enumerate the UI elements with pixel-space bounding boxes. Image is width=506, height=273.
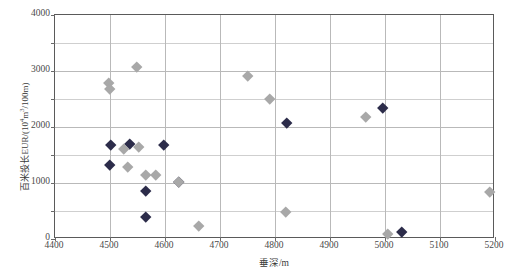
gridline-vertical — [165, 15, 166, 237]
y-tick-mark — [51, 43, 55, 44]
y-tick-mark — [51, 99, 55, 100]
data-point — [396, 226, 407, 237]
x-tick-label: 4700 — [210, 241, 229, 251]
gridline-horizontal — [55, 211, 493, 212]
data-point — [140, 185, 151, 196]
data-point — [106, 140, 117, 151]
gridline-vertical — [330, 15, 331, 237]
y-tick-mark — [51, 183, 55, 184]
x-tick-label: 5000 — [375, 241, 394, 251]
x-tick-label: 4900 — [320, 241, 339, 251]
scatter-chart: 01000200030004000 百米投长EUR/(104m3/100m) 4… — [0, 0, 506, 273]
gridline-horizontal — [55, 127, 493, 128]
data-point — [105, 159, 116, 170]
x-tick-label: 4600 — [155, 241, 174, 251]
x-axis-title: 垂深/m — [54, 255, 494, 269]
x-tick-label: 4800 — [265, 241, 284, 251]
gridline-horizontal — [55, 155, 493, 156]
data-point — [140, 211, 151, 222]
y-tick-mark — [51, 155, 55, 156]
gridline-horizontal — [55, 183, 493, 184]
data-point — [281, 207, 292, 218]
data-point — [105, 84, 116, 95]
x-axis-tick-labels: 440045004600470048004900500051005200 — [54, 241, 494, 255]
data-point — [360, 112, 371, 123]
y-tick-mark — [51, 211, 55, 212]
y-tick-mark — [51, 71, 55, 72]
data-point — [194, 221, 205, 232]
data-point — [173, 177, 184, 188]
gridline-vertical — [275, 15, 276, 237]
y-tick-mark — [51, 127, 55, 128]
gridline-horizontal — [55, 43, 493, 44]
gridline-vertical — [220, 15, 221, 237]
data-point — [123, 161, 134, 172]
gridline-vertical — [440, 15, 441, 237]
data-point — [264, 93, 275, 104]
y-axis-title: 百米投长EUR/(104m3/100m) — [14, 0, 34, 273]
plot-area — [54, 14, 494, 238]
data-point — [242, 71, 253, 82]
gridline-vertical — [110, 15, 111, 237]
x-tick-label: 4500 — [100, 241, 119, 251]
data-point — [484, 187, 495, 198]
data-point — [150, 169, 161, 180]
y-axis-title-text: 百米投长EUR/(104m3/100m) — [18, 83, 31, 191]
gridline-vertical — [385, 15, 386, 237]
x-tick-label: 5200 — [485, 241, 504, 251]
data-point — [159, 139, 170, 150]
x-tick-label: 4400 — [45, 241, 64, 251]
x-tick-label: 5100 — [430, 241, 449, 251]
gridline-horizontal — [55, 71, 493, 72]
y-tick-mark — [51, 15, 55, 16]
